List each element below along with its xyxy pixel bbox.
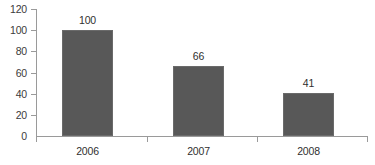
x-axis-tick-end [367,137,368,142]
bar-2006 [62,30,113,136]
y-axis-tick-label-0: 0 [0,131,27,141]
y-axis-tick-label-40: 40 [0,89,27,99]
bar-value-2007: 66 [173,51,224,62]
x-axis-label-2008: 2008 [283,146,334,157]
x-axis-tick-1 [147,137,148,142]
x-axis-label-2007: 2007 [173,146,224,157]
y-axis-tick-label-120: 120 [0,4,27,14]
bar-value-2006: 100 [62,15,113,26]
bar-2008 [283,93,334,136]
bar-chart: 120 100 80 60 40 20 0 100 66 41 2006 200… [0,0,375,165]
y-axis-tick-label-20: 20 [0,110,27,120]
y-axis-line [36,9,37,136]
x-axis-tick-start [36,137,37,142]
bar-value-2008: 41 [283,78,334,89]
x-axis-tick-2 [257,137,258,142]
y-axis-tick-label-80: 80 [0,46,27,56]
x-axis-line [36,136,368,137]
y-axis-tick-label-60: 60 [0,68,27,78]
y-axis-tick-label-100: 100 [0,25,27,35]
x-axis-label-2006: 2006 [62,146,113,157]
bar-2007 [173,66,224,136]
